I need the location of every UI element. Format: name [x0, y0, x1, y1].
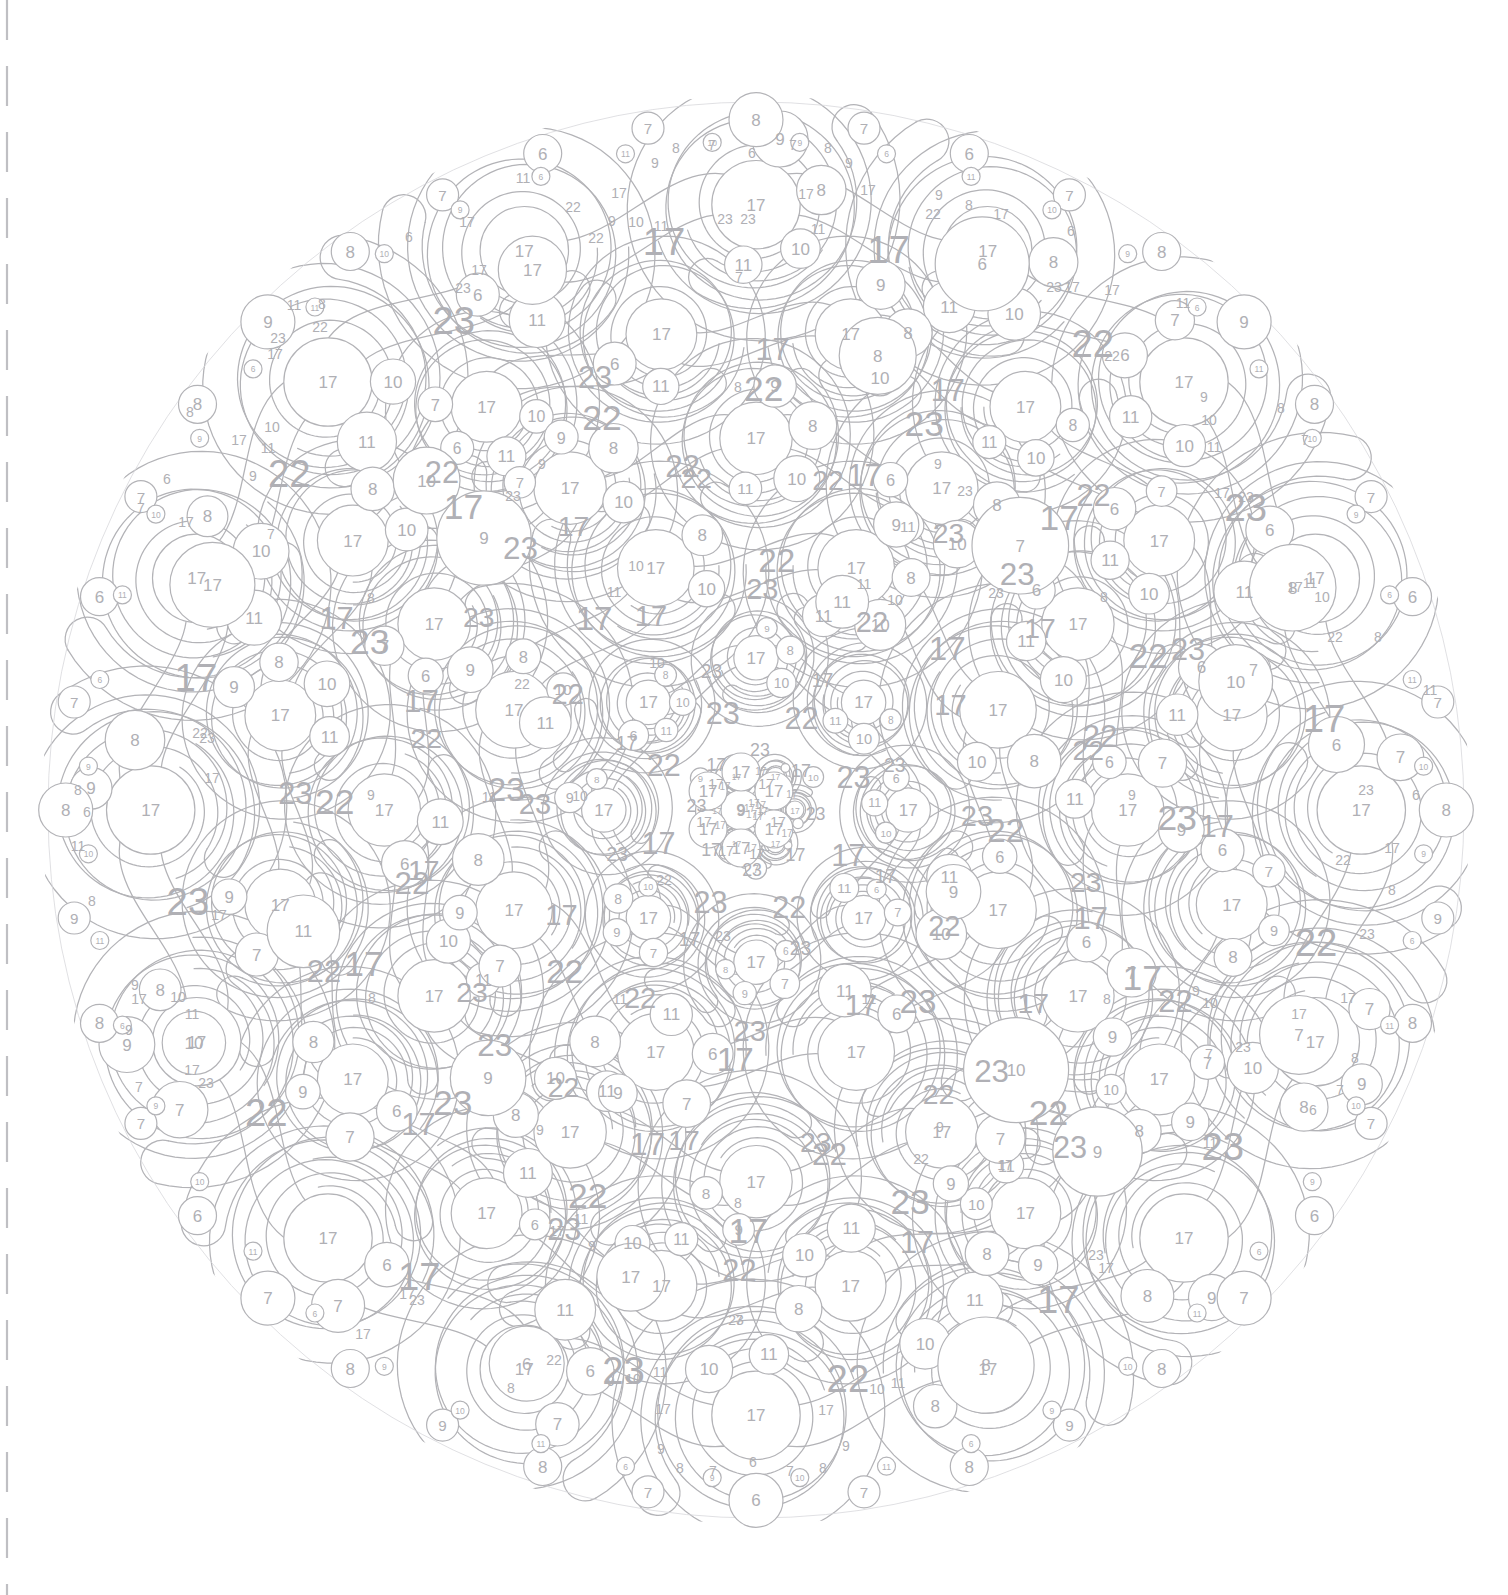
number-label: 11 [868, 796, 881, 810]
number-label: 9 [734, 1221, 742, 1238]
number-label: 8 [663, 670, 669, 681]
number-label: 7 [1158, 754, 1167, 773]
number-label: 6 [965, 145, 974, 164]
ribbon-number-label: 17 [929, 630, 966, 667]
number-label: 17 [1068, 615, 1087, 634]
number-label: 10 [916, 1335, 935, 1354]
sampled-number-label: 11 [1203, 1135, 1218, 1151]
number-label: 8 [594, 774, 600, 785]
number-label: 11 [498, 447, 516, 466]
number-label: 9 [1177, 821, 1186, 840]
number-label: 6 [1105, 754, 1114, 771]
number-label: 8 [155, 981, 164, 1000]
ribbon-number-label: 23 [463, 601, 494, 633]
number-label: 17 [477, 398, 496, 417]
number-label: 9 [1050, 1406, 1055, 1416]
ribbon-number-label: 22 [410, 722, 441, 754]
ribbon-number-label: 23 [974, 1054, 1009, 1089]
number-label: 9 [557, 429, 566, 447]
sampled-number-label: 17 [204, 770, 220, 786]
sampled-number-label: 10 [869, 1381, 885, 1397]
number-label: 10 [1005, 305, 1024, 324]
number-label: 11 [981, 434, 997, 451]
number-label: 9 [613, 1084, 622, 1103]
sampled-number-label: 17 [860, 182, 876, 198]
number-label: 17 [841, 325, 860, 344]
number-label: 17 [847, 1043, 866, 1062]
ribbon-number-label: 17 [642, 826, 676, 860]
number-label: 6 [1310, 1207, 1319, 1226]
sampled-number-label: 17 [267, 346, 283, 362]
sampled-number-label: 10 [1201, 412, 1217, 428]
ribbon-number-label: 17 [847, 458, 882, 493]
number-label: 11 [536, 714, 554, 733]
number-label: 7 [1158, 484, 1166, 500]
number-label: 11 [760, 1345, 778, 1364]
sampled-number-label: 17 [549, 1223, 565, 1239]
number-label: 9 [479, 529, 488, 548]
number-label: 17 [1352, 801, 1371, 820]
number-label: 6 [522, 1355, 531, 1374]
number-label: 10 [384, 373, 403, 392]
ribbon-number-label: 17 [812, 670, 833, 691]
number-label: 10 [252, 542, 271, 561]
number-label: 10 [195, 1177, 205, 1187]
sampled-number-label: 17 [1098, 1260, 1114, 1276]
number-label: 8 [698, 526, 707, 545]
number-label: 6 [1218, 841, 1227, 860]
number-label: 8 [95, 1014, 104, 1033]
sampled-number-label: 17 [997, 1157, 1013, 1173]
numbered-circle [793, 818, 803, 828]
number-label: 9 [1270, 923, 1278, 939]
number-label: 6 [1195, 303, 1200, 313]
ribbon-number-label: 22 [245, 1091, 288, 1134]
number-label: 6 [400, 855, 409, 874]
sampled-number-label: 9 [651, 155, 659, 171]
number-label: 8 [1157, 243, 1166, 262]
number-label: 10 [1351, 1101, 1361, 1111]
number-label: 17 [505, 901, 524, 920]
sampled-number-label: 7 [1205, 1046, 1213, 1062]
number-label: 9 [1354, 510, 1359, 520]
number-label: 10 [417, 472, 436, 491]
number-label: 10 [932, 925, 951, 944]
sampled-number-label: 10 [887, 592, 903, 608]
number-label: 17 [646, 1043, 665, 1062]
number-label: 10 [1243, 1059, 1262, 1078]
ribbon-number-label: 22 [827, 1357, 870, 1400]
number-label: 10 [871, 616, 890, 635]
number-label: 8 [274, 653, 283, 672]
number-label: 8 [346, 243, 355, 262]
number-label: 8 [787, 643, 794, 658]
ribbon-number-label: 17 [668, 1124, 699, 1156]
sampled-number-label: 6 [748, 145, 756, 161]
sampled-number-label: 22 [588, 230, 604, 246]
sampled-number-label: 23 [1358, 782, 1374, 798]
ribbon-number-label: 17 [1037, 1278, 1080, 1321]
number-label: 8 [368, 480, 377, 499]
sampled-number-label: 23 [715, 928, 731, 944]
number-label: 8 [1408, 1014, 1417, 1033]
sampled-number-label: 11 [261, 440, 276, 456]
ribbon-number-label: 22 [1077, 478, 1111, 513]
sampled-number-label: 23 [1235, 1039, 1251, 1055]
number-label: 10 [1226, 673, 1245, 692]
number-label: 8 [474, 851, 483, 870]
number-label: 17 [621, 1268, 640, 1287]
number-label: 8 [538, 1458, 547, 1477]
number-label: 17 [1175, 1229, 1194, 1248]
number-label: 10 [856, 731, 872, 747]
sampled-number-label: 9 [608, 213, 616, 229]
number-label: 9 [1434, 910, 1442, 927]
number-label: 17 [561, 1123, 580, 1142]
number-label: 10 [1054, 671, 1073, 690]
ribbon-number-label: 23 [790, 938, 811, 959]
number-label: 11 [1385, 1021, 1394, 1031]
number-label: 7 [781, 976, 789, 992]
sampled-number-label: 8 [186, 404, 194, 420]
sampled-number-label: 17 [655, 1401, 671, 1417]
number-label: 11 [358, 433, 376, 452]
number-label: 11 [95, 936, 104, 946]
number-label: 8 [930, 1397, 939, 1416]
number-label: 9 [770, 377, 779, 396]
